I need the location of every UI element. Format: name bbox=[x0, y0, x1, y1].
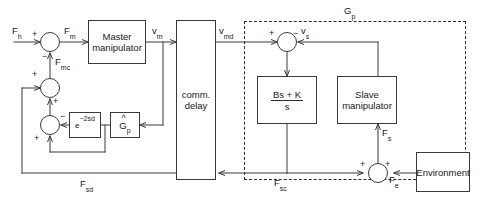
comm-delay-line1: comm. bbox=[182, 89, 211, 100]
master-manipulator-block: Master manipulator bbox=[88, 20, 146, 64]
comm-delay-line2: delay bbox=[182, 100, 211, 111]
sign-sum2-bottom: + bbox=[53, 97, 58, 106]
summing-junction-3 bbox=[40, 115, 60, 135]
environment-block: Environment bbox=[416, 152, 470, 192]
sign-sum4-left: + bbox=[269, 29, 274, 38]
signal-label-fe: Fe bbox=[389, 175, 399, 185]
sign-sum5-right: + bbox=[385, 160, 390, 169]
signal-label-vm: vm bbox=[152, 26, 163, 36]
sign-sum4-right: − bbox=[293, 29, 298, 38]
impedance-controller-block: Bs + K s bbox=[257, 76, 317, 124]
sign-sum2-left: + bbox=[32, 70, 37, 79]
sign-sum5-left: + bbox=[360, 160, 365, 169]
slave-manipulator-line2: manipulator bbox=[342, 100, 392, 111]
sign-sum1-bottom: − bbox=[42, 52, 47, 61]
signal-label-fm: Fm bbox=[64, 26, 76, 36]
plant-estimate-sub: p bbox=[127, 127, 131, 134]
slave-manipulator-block: Slave manipulator bbox=[337, 76, 397, 124]
signal-label-vs: vs bbox=[301, 26, 309, 36]
plant-estimate-hat: ^ bbox=[119, 114, 127, 123]
slave-manipulator-line1: Slave bbox=[342, 89, 392, 100]
summing-junction-2 bbox=[40, 78, 60, 98]
signal-label-fs: Fs bbox=[382, 128, 391, 138]
sign-sum3-bottom: + bbox=[34, 134, 39, 143]
block-diagram-canvas: Master manipulator comm. delay e−2sd ^ G… bbox=[0, 0, 479, 201]
transport-delay-base: e bbox=[75, 121, 79, 130]
signal-label-vmd: vmd bbox=[219, 26, 233, 36]
impedance-numerator: Bs + K bbox=[271, 89, 303, 100]
plant-group-label: Gp bbox=[344, 6, 355, 16]
master-manipulator-line1: Master bbox=[92, 31, 142, 42]
signal-label-fh: Fh bbox=[12, 26, 22, 36]
signal-label-fmc: Fmc bbox=[55, 57, 70, 67]
summing-junction-1 bbox=[40, 32, 60, 52]
transport-delay-block: e−2sd bbox=[69, 112, 101, 138]
sign-sum1-left: + bbox=[32, 30, 37, 39]
transport-delay-exponent: −2sd bbox=[80, 115, 95, 122]
impedance-denominator: s bbox=[271, 100, 303, 112]
plant-estimate-block: ^ Gp bbox=[110, 112, 140, 138]
signal-label-fsc: Fsc bbox=[274, 178, 287, 188]
environment-label: Environment bbox=[416, 167, 469, 178]
comm-delay-block: comm. delay bbox=[176, 20, 216, 180]
signal-label-fsd: Fsd bbox=[80, 179, 93, 189]
sign-sum3-right: − bbox=[60, 112, 65, 121]
master-manipulator-line2: manipulator bbox=[92, 42, 142, 53]
